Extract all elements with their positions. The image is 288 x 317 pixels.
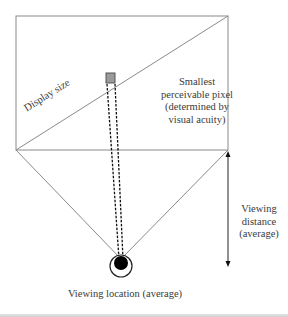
smallest-pixel-line-1: Smallest: [152, 76, 242, 89]
arrow-down-icon: [226, 261, 231, 267]
smallest-pixel-line-3: (determined by: [152, 101, 242, 114]
viewing-distance-line-2: distance: [231, 216, 287, 229]
sightline-left: [107, 84, 119, 259]
viewing-location-label: Viewing location (average): [60, 288, 190, 301]
smallest-pixel-line-2: perceivable pixel: [152, 89, 242, 102]
viewing-distance-line-3: (average): [231, 228, 287, 241]
smallest-pixel-box: [106, 73, 115, 83]
view-cone-right: [121, 150, 228, 259]
view-cone-left: [16, 150, 121, 259]
sightline-right: [115, 84, 123, 259]
display-viewing-diagram: [0, 0, 288, 317]
eye-pupil-icon: [114, 256, 128, 270]
viewing-distance-label: Viewing distance (average): [231, 203, 287, 241]
viewing-distance-line-1: Viewing: [231, 203, 287, 216]
smallest-pixel-line-4: visual acuity): [152, 114, 242, 127]
smallest-pixel-label: Smallest perceivable pixel (determined b…: [152, 76, 242, 126]
